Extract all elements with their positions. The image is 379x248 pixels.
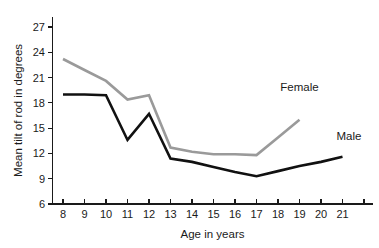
x-tick-label: 11: [122, 208, 133, 220]
y-tick-label: 9: [39, 173, 45, 185]
series-annotations: FemaleMale: [280, 81, 361, 142]
series-line-male: [63, 94, 343, 176]
y-tick-label: 6: [39, 198, 45, 210]
x-tick-label: 12: [143, 208, 155, 220]
x-tick-label: 14: [186, 208, 198, 220]
x-tick-label: 13: [164, 208, 176, 220]
y-axis-title: Mean tilt of rod in degrees: [12, 44, 24, 177]
x-tick-label: 20: [315, 208, 327, 220]
y-tick-label: 12: [33, 147, 45, 159]
y-tick-label: 21: [33, 72, 45, 84]
x-tick-label: 8: [60, 208, 66, 220]
y-tick-label: 24: [33, 46, 45, 58]
x-tick-label: 15: [207, 208, 219, 220]
x-tick-label: 21: [336, 208, 348, 220]
x-tick-label: 16: [229, 208, 241, 220]
y-tick-label: 27: [33, 21, 45, 33]
chart-figure: 69121518212427 8910111213141516171819202…: [0, 0, 379, 248]
series-lines: [63, 59, 343, 176]
series-label-female: Female: [280, 81, 318, 93]
x-tick-label: 10: [100, 208, 112, 220]
x-axis-ticks: 89101112131415161718192021: [60, 199, 364, 220]
x-tick-label: 17: [250, 208, 262, 220]
x-tick-label: 9: [81, 208, 87, 220]
series-label-male: Male: [336, 130, 361, 142]
line-chart: 69121518212427 8910111213141516171819202…: [0, 0, 379, 248]
y-axis-ticks: 69121518212427: [33, 21, 53, 210]
x-axis-title: Age in years: [181, 228, 245, 240]
y-tick-label: 15: [33, 122, 45, 134]
series-line-female: [63, 59, 300, 155]
x-tick-label: 19: [293, 208, 305, 220]
x-tick-label: 18: [272, 208, 284, 220]
y-tick-label: 18: [33, 97, 45, 109]
